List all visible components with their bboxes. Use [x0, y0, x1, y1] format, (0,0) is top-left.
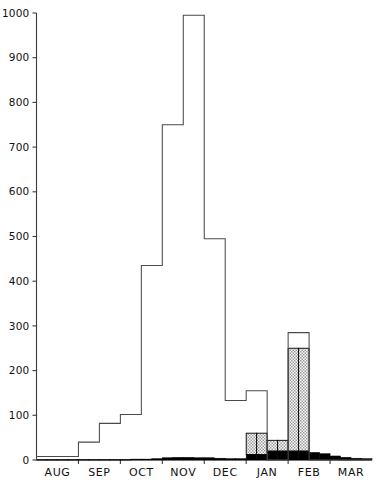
y-tick-label: 1000 [2, 7, 30, 19]
bar-segment [89, 460, 99, 461]
y-tick-label: 700 [9, 141, 30, 153]
y-tick-label: 300 [9, 320, 30, 332]
x-tick-label-aug: AUG [45, 466, 71, 479]
bar-segment [120, 460, 130, 461]
bar-segment [204, 458, 214, 460]
series-stippled [246, 348, 309, 454]
bar-segment [320, 454, 330, 460]
x-tick-label-mar: MAR [338, 466, 364, 479]
bar-segment [299, 348, 309, 451]
x-tick-labels: AUGSEPOCTNOVDECJANFEBMAR [45, 466, 365, 479]
y-tick-label: 500 [9, 230, 30, 242]
y-tick-label: 800 [9, 96, 30, 108]
bar-segment [330, 456, 340, 460]
x-tick-label-jan: JAN [256, 466, 278, 479]
bar-segment [278, 451, 288, 460]
bar-segment [309, 452, 319, 460]
bar-segment [257, 433, 267, 454]
x-tick-label-sep: SEP [88, 466, 110, 479]
bar-segment [246, 455, 256, 460]
y-tick-label: 200 [9, 364, 30, 376]
bar-segment [278, 440, 288, 451]
bar-segment [131, 459, 141, 460]
bar-segment [141, 459, 151, 460]
bar-segment [37, 460, 47, 461]
bar-segment [57, 460, 67, 461]
bar-segment [236, 459, 246, 460]
y-tick-label: 400 [9, 275, 30, 287]
bar-segment [152, 459, 162, 460]
bar-segment [246, 433, 256, 454]
y-tick-label: 600 [9, 185, 30, 197]
outline-step-curve [37, 15, 373, 460]
bar-segment [288, 451, 298, 460]
x-tick-label-dec: DEC [213, 466, 238, 479]
x-tick-label-oct: OCT [129, 466, 154, 479]
bar-segment [162, 458, 172, 460]
bar-segment [99, 460, 109, 461]
bar-segment [183, 457, 193, 460]
y-tick-label: 100 [9, 409, 30, 421]
series-solid-black [37, 451, 373, 460]
chart-container: 01002003004005006007008009001000 AUGSEPO… [0, 0, 376, 489]
bar-segment [47, 460, 57, 461]
bar-segment [267, 440, 277, 451]
bar-segment [194, 458, 204, 460]
bar-segment [225, 459, 235, 460]
x-tick-marks [78, 460, 330, 464]
y-tick-labels: 01002003004005006007008009001000 [2, 7, 30, 466]
bar-segment [288, 348, 298, 451]
y-tick-label: 0 [23, 454, 30, 466]
series-open-outline [37, 15, 373, 460]
bar-segment [299, 451, 309, 460]
bar-segment [267, 451, 277, 460]
bar-segment [173, 457, 183, 460]
bar-segment [110, 460, 120, 461]
bar-segment [215, 458, 225, 460]
bar-segment [78, 460, 88, 461]
y-tick-label: 900 [9, 51, 30, 63]
bar-segment [68, 460, 78, 461]
y-tick-marks [33, 13, 37, 460]
x-tick-label-nov: NOV [170, 466, 196, 479]
x-tick-label-feb: FEB [298, 466, 321, 479]
bar-segment [257, 455, 267, 460]
epidemic-curve-chart: 01002003004005006007008009001000 AUGSEPO… [0, 0, 376, 489]
